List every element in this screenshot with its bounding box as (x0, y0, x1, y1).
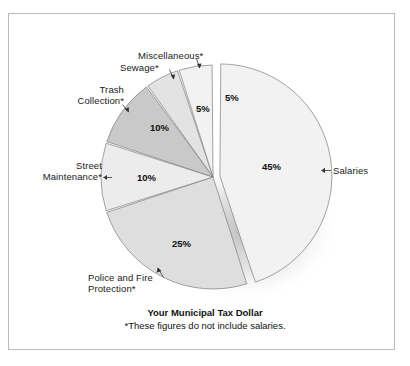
label-street-line1: Street (30, 160, 102, 172)
label-miscellaneous: Miscellaneous* (138, 50, 203, 62)
label-police-line2: Protection* (88, 283, 136, 295)
value-label-police: 25% (172, 238, 191, 249)
value-label-street: 10% (137, 172, 156, 183)
label-street-line2: Maintenance* (30, 171, 102, 183)
label-trash-line2: Collection* (58, 95, 124, 107)
label-police-line1: Police and Fire (88, 272, 153, 284)
value-label-miscellaneous: 5% (225, 92, 239, 103)
value-label-salaries: 45% (262, 161, 281, 172)
chart-title: Your Municipal Tax Dollar (0, 307, 410, 318)
value-label-trash: 10% (150, 122, 169, 133)
label-salaries: Salaries (333, 165, 368, 177)
label-trash-line1: Trash (58, 84, 124, 96)
label-sewage: Sewage* (120, 62, 159, 74)
chart-subtitle: *These figures do not include salaries. (0, 320, 410, 331)
figure-container: Salaries Miscellaneous* Sewage* Trash Co… (0, 0, 410, 366)
value-label-sewage: 5% (196, 103, 210, 114)
